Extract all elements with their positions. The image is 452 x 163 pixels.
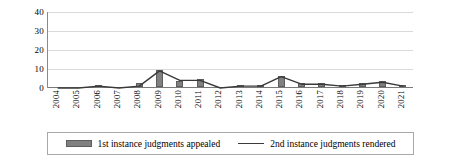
chart-legend: 1st instance judgments appealed 2nd inst… [47,132,414,155]
legend-line-swatch-icon [238,143,264,144]
x-axis-tick-label: 2010 [174,90,183,108]
line-series-2nd-instance-judgments-rendered [48,12,413,88]
legend-item-bar: 1st instance judgments appealed [66,139,221,149]
x-axis-tick-label: 2014 [255,90,264,108]
x-axis-tick-label: 2011 [194,90,203,108]
x-axis-tick-label: 2019 [356,90,365,108]
x-axis-tick-label: 2016 [295,90,304,108]
x-axis-labels: 2004200520062007200820092010201120122013… [47,90,412,124]
x-axis-tick-label: 2018 [336,90,345,108]
x-axis-tick-label: 2013 [235,90,244,108]
x-axis-tick-label: 2020 [377,90,386,108]
x-axis-tick-label: 2004 [52,90,61,108]
x-axis-tick-label: 2009 [154,90,163,108]
x-axis-tick-label: 2008 [133,90,142,108]
legend-item-line: 2nd instance judgments rendered [238,139,395,149]
plot-area: 010203040 [47,12,413,88]
chart-root: 010203040 200420052006200720082009201020… [0,0,452,163]
y-axis-tick-label: 30 [35,27,44,36]
y-axis-tick-label: 40 [35,8,44,17]
x-axis-tick-label: 2012 [214,90,223,108]
y-axis-tick-label: 10 [35,65,44,74]
x-axis-tick-label: 2005 [72,90,81,108]
x-axis-tick-label: 2015 [275,90,284,108]
x-axis-tick-label: 2017 [316,90,325,108]
x-axis-tick-label: 2021 [397,90,406,108]
x-axis-tick-label: 2007 [113,90,122,108]
y-axis-tick-label: 0 [39,84,44,93]
legend-label-line: 2nd instance judgments rendered [270,139,395,149]
legend-bar-swatch-icon [66,140,92,147]
y-axis-tick-label: 20 [35,46,44,55]
legend-label-bar: 1st instance judgments appealed [98,139,221,149]
x-axis-tick-label: 2006 [93,90,102,108]
